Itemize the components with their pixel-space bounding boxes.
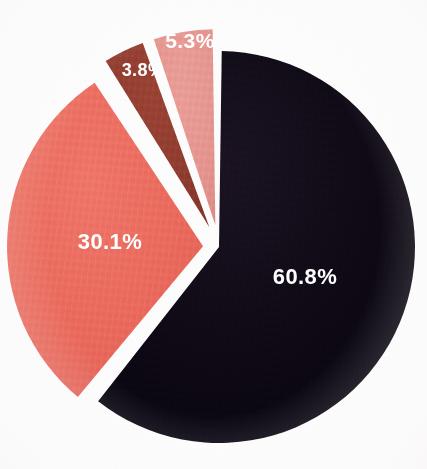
pie-chart-figure: 60.8% 30.1% 3.8% 5.3%: [0, 0, 427, 469]
pie-slice-label-2: 30.1%: [78, 229, 142, 254]
pie-slice-label-3: 3.8%: [122, 60, 165, 80]
pie-slices-group: [7, 29, 415, 443]
pie-slice-label-4: 5.3%: [165, 29, 214, 52]
pie-chart-canvas: 60.8% 30.1% 3.8% 5.3%: [0, 0, 427, 469]
pie-slice-label-1: 60.8%: [273, 264, 337, 289]
